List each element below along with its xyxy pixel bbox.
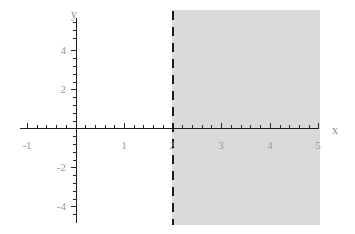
x-tick-minor — [231, 125, 232, 129]
x-tick-minor — [250, 125, 251, 129]
y-tick-minor — [73, 152, 77, 153]
x-axis-label: x — [332, 124, 338, 136]
y-tick-major — [71, 50, 77, 51]
y-tick-minor — [73, 74, 77, 75]
y-tick-minor — [73, 121, 77, 122]
x-tick-label-1: 1 — [121, 140, 127, 151]
y-tick-minor — [73, 113, 77, 114]
x-tick-minor — [299, 125, 300, 129]
x-axis-line — [20, 128, 319, 129]
x-tick-minor — [202, 125, 203, 129]
x-tick-major — [318, 123, 319, 129]
x-tick-label-4: 4 — [267, 140, 273, 151]
x-tick-minor — [241, 125, 242, 129]
x-tick-minor — [37, 125, 38, 129]
y-tick-minor — [73, 191, 77, 192]
x-tick-major — [124, 123, 125, 129]
boundary-dashed-line-x2 — [172, 11, 174, 225]
x-tick-minor — [211, 125, 212, 129]
y-tick-label--4: -4 — [42, 201, 66, 212]
y-tick-minor — [73, 183, 77, 184]
y-tick-minor — [73, 22, 77, 23]
x-tick-label-2: 2 — [169, 140, 175, 151]
y-tick-major — [71, 167, 77, 168]
y-tick-minor — [73, 38, 77, 39]
y-tick-minor — [73, 160, 77, 161]
x-tick-minor — [134, 125, 135, 129]
y-tick-label-4: 4 — [48, 45, 66, 56]
x-tick-minor — [260, 125, 261, 129]
y-tick-label-2: 2 — [48, 84, 66, 95]
x-tick-minor — [309, 125, 310, 129]
y-tick-minor — [73, 199, 77, 200]
x-tick-minor — [105, 125, 106, 129]
y-tick-major — [71, 206, 77, 207]
x-tick-minor — [289, 125, 290, 129]
x-tick-minor — [163, 125, 164, 129]
y-tick-minor — [73, 66, 77, 67]
x-tick-label-3: 3 — [218, 140, 224, 151]
y-tick-minor — [73, 82, 77, 83]
x-tick-minor — [95, 125, 96, 129]
plot-canvas: -1 1 2 3 4 5 4 2 -2 -4 x y — [0, 0, 355, 234]
x-tick-major — [221, 123, 222, 129]
y-tick-minor — [73, 97, 77, 98]
shaded-region-x-greater-than-2 — [172, 10, 320, 225]
y-tick-label--2: -2 — [42, 162, 66, 173]
x-tick-minor — [143, 125, 144, 129]
x-tick-minor — [85, 125, 86, 129]
y-tick-minor — [73, 105, 77, 106]
x-tick-label--1: -1 — [22, 140, 31, 151]
x-tick-major — [270, 123, 271, 129]
x-tick-minor — [280, 125, 281, 129]
y-tick-minor — [73, 58, 77, 59]
x-tick-minor — [192, 125, 193, 129]
y-tick-minor — [73, 175, 77, 176]
x-tick-minor — [114, 125, 115, 129]
y-tick-major — [71, 89, 77, 90]
y-tick-minor — [73, 214, 77, 215]
y-tick-minor — [73, 136, 77, 137]
x-tick-minor — [46, 125, 47, 129]
x-tick-minor — [56, 125, 57, 129]
y-tick-minor — [73, 30, 77, 31]
x-tick-minor — [153, 125, 154, 129]
y-tick-minor — [73, 144, 77, 145]
y-axis-label: y — [71, 8, 77, 20]
x-tick-major — [27, 123, 28, 129]
x-tick-label-5: 5 — [315, 140, 321, 151]
x-tick-minor — [182, 125, 183, 129]
x-tick-minor — [66, 125, 67, 129]
